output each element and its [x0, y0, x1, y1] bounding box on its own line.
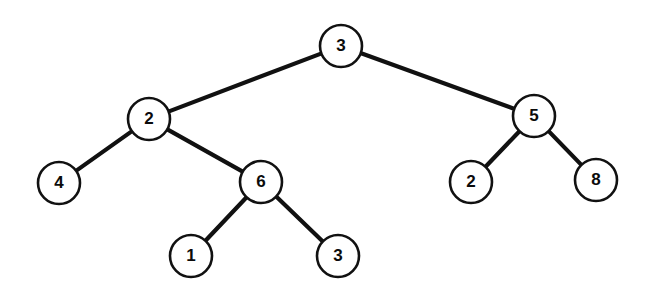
- edge-layer: [75, 53, 582, 242]
- tree-node[interactable]: 5: [513, 95, 555, 137]
- tree-edge-5-to-8: [548, 130, 582, 165]
- tree-edge-6-to-3: [275, 196, 323, 242]
- tree-diagram-figure: 325462813: [0, 0, 647, 300]
- tree-node[interactable]: 8: [575, 159, 617, 201]
- tree-edge-6-to-1: [205, 197, 248, 242]
- tree-diagram-canvas: 325462813: [0, 0, 647, 300]
- tree-edge-5-to-2: [485, 130, 520, 167]
- node-label: 5: [529, 106, 538, 125]
- node-label: 3: [336, 36, 345, 55]
- tree-node[interactable]: 3: [317, 235, 359, 277]
- tree-edge-2-to-4: [75, 131, 132, 172]
- tree-node[interactable]: 3: [320, 25, 362, 67]
- tree-edge-3-to-5: [360, 53, 515, 109]
- node-label: 8: [591, 170, 600, 189]
- node-label: 2: [466, 172, 475, 191]
- node-label: 1: [186, 246, 195, 265]
- node-label: 3: [333, 246, 342, 265]
- tree-node[interactable]: 2: [128, 98, 170, 140]
- tree-node[interactable]: 4: [38, 162, 80, 204]
- tree-edge-2-to-6: [166, 129, 243, 172]
- tree-node[interactable]: 6: [240, 161, 282, 203]
- node-layer: 325462813: [38, 25, 617, 277]
- tree-node[interactable]: 2: [450, 161, 492, 203]
- node-label: 6: [256, 172, 265, 191]
- node-label: 4: [54, 173, 64, 192]
- tree-node[interactable]: 1: [170, 235, 212, 277]
- node-label: 2: [144, 109, 153, 128]
- tree-edge-3-to-2: [168, 53, 323, 112]
